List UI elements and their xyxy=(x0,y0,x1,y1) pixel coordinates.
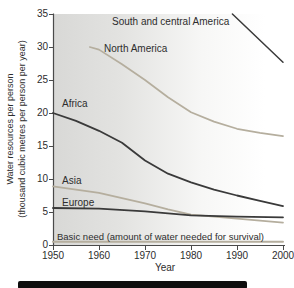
water-resources-chart: South and central America North America … xyxy=(0,0,294,288)
x-tick-label: 1980 xyxy=(180,250,202,261)
axis-lines xyxy=(54,14,286,246)
series-line-north-america xyxy=(90,47,283,136)
x-tick-label: 1990 xyxy=(226,250,248,261)
y-tick-label: 15 xyxy=(24,140,48,152)
y-axis-title-line2: (thousand cubic metres per person per ye… xyxy=(17,40,27,218)
y-tick-label: 35 xyxy=(24,8,48,20)
x-tick-label: 1960 xyxy=(88,250,110,261)
y-tick-label: 5 xyxy=(24,206,48,218)
series-label-africa: Africa xyxy=(62,98,88,109)
x-tick-label: 1970 xyxy=(134,250,156,261)
x-axis-tick-labels: 195019601970198019902000 xyxy=(0,250,294,262)
series-label-basic-need: Basic need (amount of water needed for s… xyxy=(57,231,264,242)
series-line-south-central-america xyxy=(232,14,283,62)
series-label-asia: Asia xyxy=(62,175,81,186)
y-tick-label: 10 xyxy=(24,173,48,185)
y-tick-label: 20 xyxy=(24,107,48,119)
y-axis-title-line1: Water resources per person xyxy=(5,73,15,184)
series-label-north-america: North America xyxy=(104,43,167,54)
series-line-africa xyxy=(53,113,283,206)
x-axis-title: Year xyxy=(155,262,175,273)
series-label-south-central-america: South and central America xyxy=(112,16,229,27)
y-tick-label: 25 xyxy=(24,74,48,86)
y-tick-label: 30 xyxy=(24,41,48,53)
x-tick-label: 2000 xyxy=(272,250,294,261)
series-label-europe: Europe xyxy=(62,197,94,208)
footer-black-bar xyxy=(18,281,247,288)
x-tick-label: 1950 xyxy=(42,250,64,261)
